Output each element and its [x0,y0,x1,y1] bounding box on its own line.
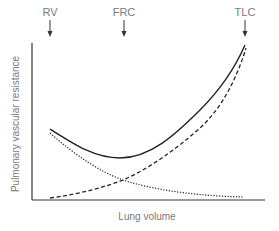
marker-rv-label: RV [42,6,58,18]
arrow-down-icon [243,20,248,37]
arrow-down-icon [122,20,127,37]
total-resistance-curve [50,45,245,158]
alveolar-resistance-curve [50,48,246,198]
marker-frc-label: FRC [113,6,136,18]
y-axis-label: Pulmonary vascular resistance [10,55,21,192]
arrow-down-icon [48,20,53,37]
x-axis-label: Lung volume [118,211,176,222]
pvr-lung-volume-diagram: RV FRC TLC Lung volume Pulmonary vascula… [0,0,279,231]
marker-tlc-label: TLC [235,6,256,18]
extra-alveolar-resistance-curve [50,133,243,197]
